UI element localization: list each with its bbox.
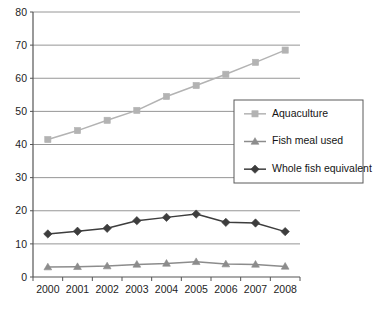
x-tick-label: 2004 (155, 283, 179, 295)
chart-canvas: 01020304050607080 2000200120022003200420… (0, 0, 379, 312)
data-point (223, 71, 229, 77)
legend-label: Fish meal used (272, 134, 343, 146)
legend-label: Whole fish equivalent (272, 162, 372, 174)
x-tick-label: 2003 (125, 283, 149, 295)
y-tick-label: 20 (15, 204, 27, 216)
y-tick-label: 80 (15, 6, 27, 18)
data-point (252, 59, 258, 65)
data-point (134, 107, 140, 113)
y-tick-label: 10 (15, 238, 27, 250)
data-point (282, 47, 288, 53)
x-tick-label: 2002 (95, 283, 119, 295)
legend-swatch-marker (252, 111, 258, 117)
y-tick-label: 0 (21, 271, 27, 283)
data-point (74, 127, 80, 133)
y-tick-label: 40 (15, 138, 27, 150)
data-point (45, 136, 51, 142)
y-tick-label: 30 (15, 171, 27, 183)
line-chart: 01020304050607080 2000200120022003200420… (0, 0, 379, 312)
x-tick-label: 2007 (244, 283, 268, 295)
y-tick-label: 60 (15, 72, 27, 84)
x-tick-label: 2000 (36, 283, 60, 295)
x-tick-label: 2008 (273, 283, 297, 295)
data-point (104, 117, 110, 123)
chart-legend: AquacultureFish meal usedWhole fish equi… (234, 100, 372, 183)
legend-label: Aquaculture (272, 107, 328, 119)
x-tick-label: 2001 (66, 283, 90, 295)
x-tick-label: 2006 (214, 283, 238, 295)
y-tick-label: 50 (15, 105, 27, 117)
y-tick-label: 70 (15, 39, 27, 51)
data-point (193, 82, 199, 88)
data-point (163, 93, 169, 99)
x-tick-label: 2005 (184, 283, 208, 295)
